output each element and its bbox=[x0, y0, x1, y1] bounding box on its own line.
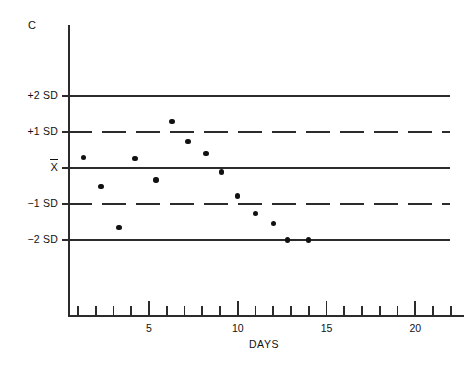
x-tick-minor bbox=[166, 306, 168, 316]
x-tick-minor bbox=[201, 306, 203, 316]
y-axis-label: +1 SD bbox=[0, 125, 58, 137]
x-tick-minor bbox=[113, 306, 115, 316]
x-tick-minor bbox=[308, 306, 310, 316]
x-tick-minor bbox=[379, 306, 381, 316]
x-tick-minor bbox=[77, 306, 79, 316]
reference-line-1sd bbox=[68, 131, 450, 133]
y-axis-label: X bbox=[0, 161, 58, 173]
x-axis-title: DAYS bbox=[249, 338, 279, 350]
data-point bbox=[253, 211, 258, 216]
x-tick-minor bbox=[255, 306, 257, 316]
y-axis-label: −2 SD bbox=[0, 233, 58, 245]
x-tick-minor bbox=[361, 306, 363, 316]
x-tick-major bbox=[414, 301, 416, 316]
x-tick-minor bbox=[397, 306, 399, 316]
chart-page: C +2 SD+1 SDX−1 SD−2 SD 5101520 DAYS bbox=[0, 0, 474, 365]
y-tick-mark bbox=[62, 167, 75, 169]
x-tick-major bbox=[326, 301, 328, 316]
data-point bbox=[235, 193, 240, 198]
reference-line-x bbox=[68, 167, 450, 169]
data-point bbox=[81, 155, 86, 160]
x-tick-major bbox=[148, 301, 150, 316]
y-tick-mark bbox=[62, 239, 75, 241]
data-point bbox=[306, 237, 311, 242]
x-tick-minor bbox=[184, 306, 186, 316]
y-tick-mark bbox=[62, 203, 75, 205]
data-point bbox=[116, 225, 121, 230]
y-axis-line bbox=[68, 25, 70, 317]
data-point bbox=[185, 139, 190, 144]
x-axis-tick-label: 15 bbox=[312, 322, 342, 334]
data-point bbox=[132, 156, 137, 161]
y-axis-label: −1 SD bbox=[0, 197, 58, 209]
data-point bbox=[271, 221, 276, 226]
data-point bbox=[203, 151, 208, 156]
y-tick-mark bbox=[62, 95, 75, 97]
x-tick-minor bbox=[130, 306, 132, 316]
data-point bbox=[169, 119, 174, 124]
x-axis-tick-label: 5 bbox=[134, 322, 164, 334]
x-tick-minor bbox=[290, 306, 292, 316]
x-axis-tick-label: 10 bbox=[223, 322, 253, 334]
data-point bbox=[98, 184, 103, 189]
reference-line-2sd bbox=[68, 239, 450, 241]
data-point bbox=[285, 237, 290, 242]
x-tick-major bbox=[237, 301, 239, 316]
x-tick-minor bbox=[343, 306, 345, 316]
y-tick-mark bbox=[62, 131, 75, 133]
x-axis-tick-label: 20 bbox=[400, 322, 430, 334]
x-tick-minor bbox=[272, 306, 274, 316]
reference-line-1sd bbox=[68, 203, 450, 205]
data-point bbox=[153, 177, 158, 182]
x-tick-minor bbox=[95, 306, 97, 316]
x-tick-minor bbox=[219, 306, 221, 316]
reference-line-2sd bbox=[68, 95, 450, 97]
y-axis-label: +2 SD bbox=[0, 89, 58, 101]
x-tick-minor bbox=[450, 306, 452, 316]
panel-label-c: C bbox=[28, 19, 36, 31]
data-point bbox=[219, 169, 224, 174]
x-tick-minor bbox=[432, 306, 434, 316]
x-axis-line bbox=[68, 315, 464, 317]
